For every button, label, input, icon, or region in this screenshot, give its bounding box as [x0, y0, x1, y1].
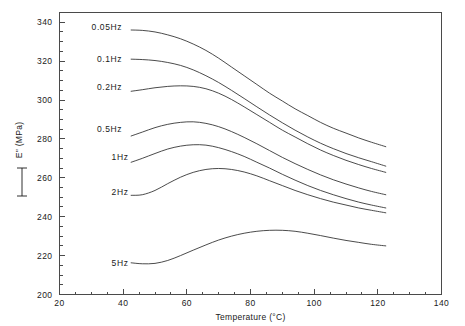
x-tick-label: 60 — [182, 298, 192, 308]
x-axis-tick-labels: 20406080100120140 — [54, 298, 449, 308]
series-curve — [131, 30, 386, 147]
series-label-0-5Hz: 0.5Hz — [97, 124, 122, 134]
series-curve — [131, 86, 386, 173]
series-label-0-05Hz: 0.05Hz — [92, 22, 123, 32]
x-tick-label: 80 — [245, 298, 255, 308]
chart-figure: 20406080100120140 2002202402602803003203… — [0, 0, 465, 326]
y-axis-label-group: E" (MPa) — [14, 122, 27, 196]
y-tick-label: 260 — [37, 173, 52, 183]
y-tick-label: 200 — [37, 290, 52, 300]
x-tick-label: 140 — [434, 298, 449, 308]
x-tick-label: 120 — [370, 298, 385, 308]
y-tick-label: 340 — [37, 17, 52, 27]
y-tick-label: 320 — [37, 56, 52, 66]
series-label-5Hz: 5Hz — [112, 258, 129, 268]
x-axis-label: Temperature (°C) — [215, 312, 285, 322]
chart-svg: 20406080100120140 2002202402602803003203… — [0, 0, 465, 326]
y-axis-bracket — [17, 168, 27, 196]
series-curve — [131, 59, 386, 166]
y-axis-tick-labels: 200220240260280300320340 — [37, 17, 52, 299]
x-tick-label: 40 — [118, 298, 128, 308]
x-tick-label: 100 — [306, 298, 321, 308]
series-label-1Hz: 1Hz — [112, 152, 129, 162]
series-label-0-2Hz: 0.2Hz — [97, 82, 122, 92]
series-curve — [131, 168, 386, 212]
y-tick-label: 240 — [37, 212, 52, 222]
series-label-2Hz: 2Hz — [112, 187, 129, 197]
y-tick-label: 300 — [37, 95, 52, 105]
y-tick-label: 220 — [37, 251, 52, 261]
x-tick-label: 20 — [54, 298, 64, 308]
series-labels: 0.05Hz0.1Hz0.2Hz0.5Hz1Hz2Hz5Hz — [92, 22, 129, 268]
y-tick-label: 280 — [37, 134, 52, 144]
y-axis-label: E" (MPa) — [14, 122, 24, 159]
series-label-0-1Hz: 0.1Hz — [97, 54, 122, 64]
x-axis-major-ticks — [60, 289, 442, 295]
series-curve — [131, 122, 386, 195]
series-curve — [131, 230, 386, 264]
data-curves — [131, 30, 386, 264]
